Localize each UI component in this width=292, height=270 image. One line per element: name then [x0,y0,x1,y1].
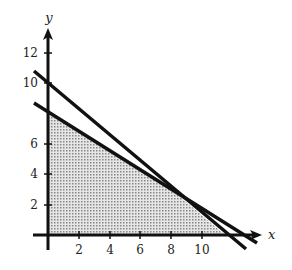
y-axis-label: y [44,10,53,25]
shaded-region [48,113,225,235]
x-tick-label: 8 [167,243,175,257]
y-tick-label: 2 [30,198,38,212]
y-tick-label: 12 [23,46,38,60]
x-tick-label: 2 [75,243,83,257]
y-tick-label: 6 [30,137,38,151]
x-tick-label: 4 [106,243,114,257]
x-tick-label: 10 [194,243,209,257]
chart: 2 4 6 8 10 2 4 6 10 12 x y [0,0,292,270]
y-tick-label: 4 [30,167,38,181]
y-tick-label: 10 [23,76,38,90]
x-tick-label: 6 [136,243,144,257]
x-axis-label: x [268,227,276,242]
